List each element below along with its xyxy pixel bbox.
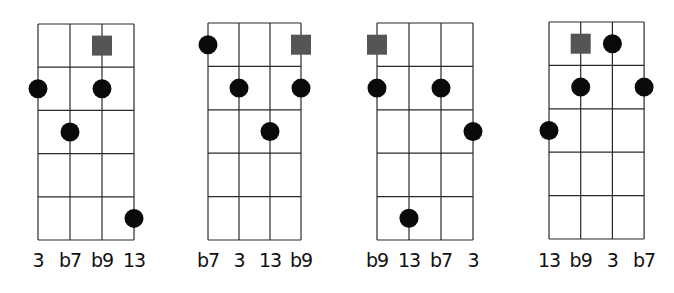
interval-label: b9 bbox=[362, 249, 392, 271]
interval-label: b7 bbox=[629, 249, 659, 271]
chord-diagram-1 bbox=[29, 24, 144, 240]
finger-dot-icon bbox=[400, 209, 419, 228]
root-square-icon bbox=[367, 35, 387, 55]
finger-dot-icon bbox=[540, 121, 559, 140]
interval-label: 3 bbox=[23, 249, 53, 271]
finger-dot-icon bbox=[292, 79, 311, 98]
finger-dot-icon bbox=[464, 122, 483, 141]
finger-dot-icon bbox=[29, 79, 48, 98]
root-square-icon bbox=[92, 36, 112, 56]
root-square-icon bbox=[291, 35, 311, 55]
interval-label: 13 bbox=[119, 249, 149, 271]
chord-diagram-4 bbox=[540, 22, 654, 239]
chord-diagram-2 bbox=[199, 23, 312, 240]
finger-dot-icon bbox=[199, 35, 218, 54]
finger-dot-icon bbox=[261, 122, 280, 141]
finger-dot-icon bbox=[125, 209, 144, 228]
interval-label: b7 bbox=[55, 249, 85, 271]
finger-dot-icon bbox=[368, 79, 387, 98]
interval-label: b7 bbox=[426, 249, 456, 271]
interval-label: 3 bbox=[458, 249, 488, 271]
root-square-icon bbox=[571, 34, 591, 54]
interval-label: 3 bbox=[597, 249, 627, 271]
finger-dot-icon bbox=[571, 78, 590, 97]
finger-dot-icon bbox=[230, 79, 249, 98]
finger-dot-icon bbox=[603, 34, 622, 53]
finger-dot-icon bbox=[93, 79, 112, 98]
interval-label: b9 bbox=[566, 249, 596, 271]
interval-label: b9 bbox=[286, 249, 316, 271]
interval-label: b9 bbox=[87, 249, 117, 271]
finger-dot-icon bbox=[635, 78, 654, 97]
interval-label: 3 bbox=[224, 249, 254, 271]
finger-dot-icon bbox=[432, 79, 451, 98]
interval-label: 13 bbox=[255, 249, 285, 271]
interval-label: b7 bbox=[193, 249, 223, 271]
interval-label: 13 bbox=[394, 249, 424, 271]
interval-label: 13 bbox=[534, 249, 564, 271]
chord-diagram-3 bbox=[367, 23, 483, 240]
finger-dot-icon bbox=[61, 123, 80, 142]
